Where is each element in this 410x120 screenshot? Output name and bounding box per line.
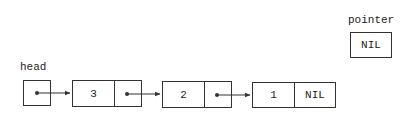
- node-key: 3: [73, 81, 114, 106]
- list-node-2: 2: [162, 81, 232, 108]
- pointer-value: NIL: [351, 33, 391, 57]
- head-pointer-box: [23, 80, 51, 106]
- pointer-label: pointer: [348, 14, 394, 26]
- linked-list-diagram: head pointer NIL 3 2 1 NIL: [0, 0, 410, 120]
- node-key: 1: [253, 83, 294, 107]
- node-next-pointer: [114, 81, 141, 106]
- node-key: 2: [163, 82, 204, 107]
- node-next-pointer: [204, 82, 231, 107]
- list-node-3: 3: [72, 80, 142, 107]
- pointer-box: NIL: [350, 32, 392, 58]
- list-node-1: 1 NIL: [252, 82, 336, 108]
- head-label: head: [20, 61, 46, 73]
- node-next-nil: NIL: [294, 83, 335, 107]
